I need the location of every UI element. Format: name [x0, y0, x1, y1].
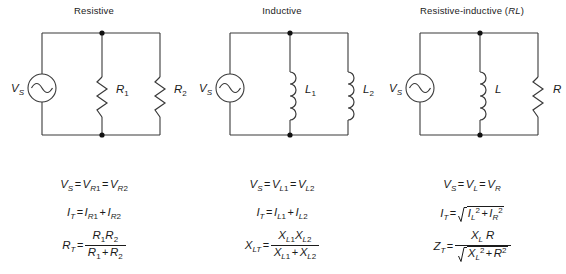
- circuit-resistive: VS R1 R2: [0, 22, 188, 142]
- resistor-icon-r: [533, 77, 543, 117]
- formula-voltage-rl: VS=VL=VR: [378, 178, 566, 194]
- formula-voltage-inductive: VS=VL1=VL2: [188, 178, 376, 194]
- column-resistive: Resistive: [0, 0, 188, 274]
- component-label-r1: R1: [116, 83, 129, 98]
- formula-current-resistive: IT=IR1+IR2: [0, 206, 188, 222]
- column-title-resistive: Resistive: [0, 5, 188, 16]
- circuit-rl: VS L R: [378, 22, 566, 142]
- title-italic-rl: RL: [508, 5, 520, 16]
- column-title-rl: Resistive-inductive (RL): [378, 5, 566, 16]
- formulas-inductive: VS=VL1=VL2 IT=IL1+IL2 XLT= XL1XL2 XL1+XL…: [188, 170, 376, 274]
- junction-dot-bottom: [287, 132, 292, 137]
- component-label-l2: L2: [363, 83, 374, 98]
- inductor-icon-l2: [348, 72, 354, 120]
- ac-sine-icon: [32, 84, 53, 93]
- junction-dot-top: [287, 30, 292, 35]
- component-label-l1: L1: [305, 83, 316, 98]
- title-text: Resistive: [74, 5, 114, 16]
- column-title-inductive: Inductive: [188, 5, 376, 16]
- source-label-vs: VS: [199, 82, 213, 97]
- formula-current-rl: IT= IL2+IR2: [378, 206, 566, 223]
- resistor-icon-r1: [97, 77, 107, 117]
- circuit-svg-resistive: VS R1 R2: [0, 22, 188, 142]
- junction-dot-top: [477, 30, 482, 35]
- radical-icon: [458, 206, 467, 223]
- circuit-svg-rl: VS L R: [378, 22, 566, 142]
- source-label-vs: VS: [11, 82, 25, 97]
- formulas-rl: VS=VL=VR IT= IL2+IR2 ZT= XL R XL2+R2: [378, 170, 566, 274]
- inductor-icon-l1: [290, 72, 296, 120]
- inductor-icon-l: [480, 72, 486, 120]
- ac-sine-icon: [220, 84, 241, 93]
- circuit-svg-inductive: VS L1 L2: [188, 22, 376, 142]
- title-text: Resistive-inductive (: [420, 5, 508, 16]
- formula-impedance-rl: ZT= XL R XL2+R2: [378, 230, 566, 264]
- column-resistive-inductive: Resistive-inductive (RL): [378, 0, 566, 274]
- formulas-resistive: VS=VR1=VR2 IT=IR1+IR2 RT= R1R2 R1+R2: [0, 170, 188, 274]
- source-label-vs: VS: [389, 82, 403, 97]
- junction-dot-top: [99, 30, 104, 35]
- formula-reactance-inductive: XLT= XL1XL2 XL1+XL2: [188, 230, 376, 263]
- circuit-inductive: VS L1 L2: [188, 22, 376, 142]
- component-label-r2: R2: [174, 83, 187, 98]
- title-text: Inductive: [262, 5, 301, 16]
- resistor-icon-r2: [155, 77, 165, 117]
- formula-current-inductive: IT=IL1+IL2: [188, 206, 376, 222]
- title-close-paren: ): [521, 5, 524, 16]
- column-inductive: Inductive: [188, 0, 376, 274]
- component-label-l: L: [495, 83, 501, 95]
- junction-dot-bottom: [99, 132, 104, 137]
- radical-icon: [458, 246, 467, 263]
- formula-voltage-resistive: VS=VR1=VR2: [0, 178, 188, 194]
- component-label-r: R: [553, 83, 561, 95]
- ac-sine-icon: [410, 84, 431, 93]
- junction-dot-bottom: [477, 132, 482, 137]
- formula-resistance-resistive: RT= R1R2 R1+R2: [0, 230, 188, 263]
